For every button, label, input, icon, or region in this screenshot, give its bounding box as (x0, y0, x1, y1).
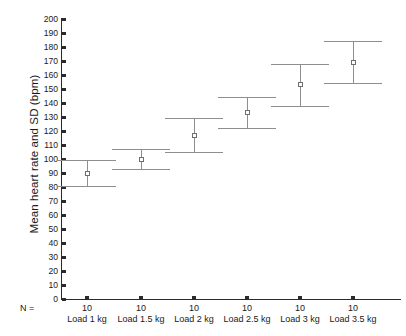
x-axis-line (61, 299, 401, 300)
y-tick-mark (62, 298, 66, 301)
y-tick-mark (62, 116, 66, 119)
x-tick-mark (351, 296, 355, 300)
y-tick-label: 120 (4, 127, 58, 135)
data-point-marker (298, 82, 303, 87)
y-tick-label: 110 (4, 141, 58, 149)
y-tick-label: 150 (4, 85, 58, 93)
y-tick-label: 100 (4, 155, 58, 163)
y-tick-mark (62, 200, 66, 203)
y-tick-label: 20 (4, 267, 58, 275)
y-tick-mark (62, 32, 66, 35)
error-bar-cap-upper (112, 149, 170, 150)
error-bar-cap-lower (271, 106, 329, 107)
y-tick-mark (62, 18, 66, 21)
y-tick-mark (62, 228, 66, 231)
y-tick-mark (62, 172, 66, 175)
n-row-label: N = (20, 303, 34, 313)
y-tick-label: 130 (4, 113, 58, 121)
y-tick-mark (62, 256, 66, 259)
y-tick-label: 90 (4, 169, 58, 177)
data-point-marker (139, 157, 144, 162)
error-bar-cap-lower (58, 186, 116, 187)
y-tick-label: 70 (4, 197, 58, 205)
n-count-value: 10 (318, 303, 388, 313)
data-point-marker (245, 110, 250, 115)
y-tick-label: 170 (4, 57, 58, 65)
error-bar-cap-upper (324, 41, 382, 42)
x-category-label: Load 3.5 kg (313, 314, 393, 324)
x-tick-mark (245, 296, 249, 300)
y-tick-label: 160 (4, 71, 58, 79)
y-tick-label: 200 (4, 15, 58, 23)
x-tick-mark (192, 296, 196, 300)
error-bar-cap-upper (58, 160, 116, 161)
y-tick-label: 140 (4, 99, 58, 107)
y-tick-mark (62, 60, 66, 63)
y-tick-mark (62, 284, 66, 287)
y-tick-mark (62, 144, 66, 147)
y-tick-label: 50 (4, 225, 58, 233)
y-tick-mark (62, 102, 66, 105)
data-point-marker (351, 60, 356, 65)
y-tick-label: 190 (4, 29, 58, 37)
y-tick-mark (62, 88, 66, 91)
y-tick-mark (62, 242, 66, 245)
data-point-marker (192, 133, 197, 138)
y-tick-label: 60 (4, 211, 58, 219)
y-tick-label: 80 (4, 183, 58, 191)
error-bar-cap-upper (218, 97, 276, 98)
x-tick-mark (298, 296, 302, 300)
y-tick-label: 0 (4, 295, 58, 303)
y-tick-mark (62, 214, 66, 217)
error-bar-cap-lower (324, 83, 382, 84)
y-tick-label: 180 (4, 43, 58, 51)
y-tick-mark (62, 74, 66, 77)
y-tick-label: 30 (4, 253, 58, 261)
y-tick-label: 40 (4, 239, 58, 247)
error-bar-cap-upper (271, 64, 329, 65)
error-bar-cap-lower (165, 152, 223, 153)
y-tick-label: 10 (4, 281, 58, 289)
y-tick-mark (62, 46, 66, 49)
x-tick-mark (85, 296, 89, 300)
data-point-marker (85, 171, 90, 176)
x-tick-mark (139, 296, 143, 300)
error-bar-cap-upper (165, 118, 223, 119)
y-tick-mark (62, 270, 66, 273)
chart-container: Mean heart rate and SD (bpm) 01020304050… (0, 0, 406, 336)
error-bar-cap-lower (218, 128, 276, 129)
error-bar-cap-lower (112, 169, 170, 170)
y-tick-mark (62, 130, 66, 133)
